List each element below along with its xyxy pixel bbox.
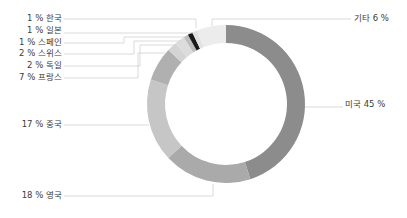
slice-label: 1 % 스페인	[19, 37, 62, 47]
slice-label: 2 % 스위스	[19, 48, 62, 58]
leader-line	[64, 37, 186, 43]
slice-label: 7 % 프랑스	[19, 72, 62, 82]
slice-label: 18 % 영국	[22, 190, 62, 200]
slice-label: 2 % 독일	[27, 60, 62, 70]
slice-2	[147, 80, 182, 158]
slice-label: 1 % 한국	[27, 13, 62, 23]
slice-label: 미국 45 %	[345, 99, 385, 109]
leader-line	[64, 45, 175, 66]
leader-line	[64, 53, 165, 78]
leader-line	[64, 184, 213, 196]
slice-label: 17 % 중국	[22, 119, 62, 129]
slice-0	[226, 25, 305, 179]
leader-line	[212, 19, 351, 26]
donut-slices	[147, 25, 305, 183]
leader-line	[64, 19, 196, 28]
slice-1	[168, 146, 250, 183]
donut-chart: 미국 45 %18 % 영국17 % 중국7 % 프랑스2 % 독일2 % 스위…	[0, 0, 407, 218]
slice-label: 기타 6 %	[354, 13, 389, 23]
slice-label: 1 % 일본	[27, 25, 62, 35]
